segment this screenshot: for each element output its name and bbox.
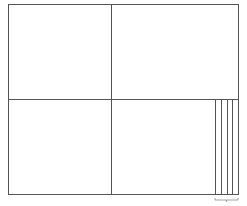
bracket-path	[215, 198, 238, 202]
width-bracket	[215, 198, 238, 202]
strip-lines	[216, 99, 233, 195]
diagram-canvas	[0, 0, 247, 206]
grid-diagram	[0, 0, 247, 206]
